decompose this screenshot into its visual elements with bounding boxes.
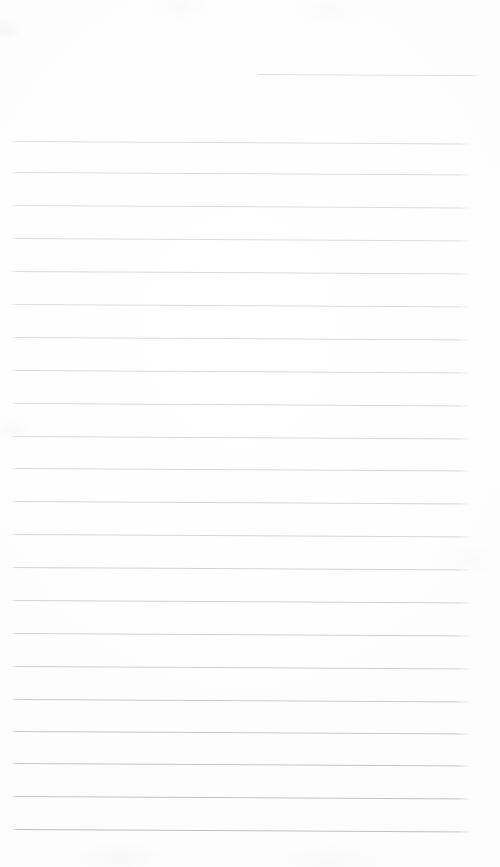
rule-line (11, 141, 471, 145)
rule-line (11, 633, 471, 637)
rule-line (11, 534, 471, 538)
partial-rule-top (257, 74, 478, 76)
rule-line (11, 796, 471, 800)
rule-line (11, 238, 471, 242)
rule-line (11, 271, 471, 275)
lined-paper-page (0, 0, 500, 867)
rule-line (11, 337, 471, 341)
rule-line (11, 731, 471, 735)
rule-line (11, 763, 471, 767)
rule-line (11, 205, 471, 209)
rule-line (11, 567, 471, 571)
ruled-lines-layer (0, 0, 500, 867)
rule-line (11, 829, 471, 833)
rule-line (11, 436, 471, 440)
rule-line (11, 600, 471, 604)
rule-line (11, 468, 471, 472)
rule-line (11, 666, 471, 670)
rule-line (11, 304, 471, 308)
rule-line (11, 403, 471, 407)
rule-line (11, 172, 471, 176)
rule-line (11, 370, 471, 374)
rule-line (11, 501, 471, 505)
rule-line (11, 699, 471, 703)
